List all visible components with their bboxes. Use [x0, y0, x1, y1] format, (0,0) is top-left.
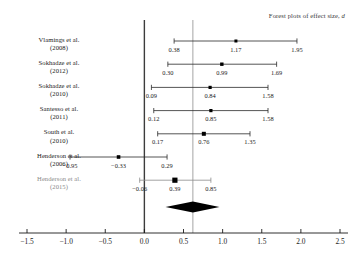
study-label: Henderson et al.(2006) — [0, 152, 118, 168]
x-axis-tick-label: 0.5 — [179, 237, 188, 246]
ci-upper-label: 1.58 — [262, 92, 273, 99]
effect-size-label: 0.99 — [216, 69, 227, 76]
study-year: (2012) — [50, 67, 68, 74]
study-author: Henderson et al. — [37, 152, 81, 159]
effect-size-label: 1.17 — [230, 46, 241, 53]
study-year: (2006) — [50, 160, 68, 167]
effect-marker — [202, 132, 206, 136]
x-axis-tick-label: −1.0 — [59, 237, 72, 246]
study-year: (2010) — [50, 137, 68, 144]
ci-upper-label: 1.35 — [244, 138, 255, 145]
effect-size-label: 0.85 — [205, 115, 216, 122]
effect-size-label: 0.39 — [169, 185, 180, 192]
chart-title-symbol: d — [342, 12, 345, 19]
study-label: Santesso et al.(2011) — [0, 105, 118, 121]
x-axis-tick-label: 2.0 — [296, 237, 305, 246]
summary-diamond — [166, 202, 220, 213]
study-year: (2015) — [50, 183, 68, 190]
study-year: (2010) — [50, 90, 68, 97]
effect-size-label: 0.84 — [204, 92, 215, 99]
ci-lower-label: −0.06 — [132, 185, 147, 192]
chart-title: Forest plots of effect size, d — [269, 12, 345, 19]
study-label: South et al.(2010) — [0, 128, 118, 144]
ci-upper-label: 1.69 — [271, 69, 282, 76]
effect-marker — [234, 40, 237, 43]
study-year: (2011) — [50, 113, 68, 120]
x-axis-tick-label: 2.5 — [335, 237, 344, 246]
study-label: Henderson et al.(2015) — [0, 175, 118, 191]
effect-marker — [209, 86, 212, 89]
study-author: Vlamings et al. — [39, 36, 80, 43]
study-label: Vlamings et al.(2008) — [0, 36, 118, 52]
ci-upper-label: 0.85 — [205, 185, 216, 192]
x-axis-tick-label: 1.0 — [218, 237, 227, 246]
chart-title-text: Forest plots of effect size, — [269, 12, 340, 19]
ci-lower-label: 0.12 — [148, 115, 159, 122]
effect-marker — [172, 178, 177, 183]
study-year: (2008) — [50, 44, 68, 51]
study-author: Santesso et al. — [40, 105, 78, 112]
ci-lower-label: 0.30 — [162, 69, 173, 76]
study-author: Sokhadze et al. — [39, 82, 80, 89]
effect-size-label: 0.76 — [198, 138, 209, 145]
effect-marker — [209, 109, 212, 112]
x-axis-tick-label: 0.0 — [140, 237, 149, 246]
effect-marker — [220, 63, 223, 66]
x-axis-tick-label: −1.5 — [20, 237, 33, 246]
study-label: Sokhadze et al.(2010) — [0, 82, 118, 98]
study-author: South et al. — [44, 128, 74, 135]
study-label: Sokhadze et al.(2012) — [0, 59, 118, 75]
ci-upper-label: 0.29 — [161, 162, 172, 169]
ci-lower-label: 0.38 — [168, 46, 179, 53]
ci-lower-label: 0.09 — [146, 92, 157, 99]
study-author: Henderson et al. — [37, 175, 81, 182]
ci-lower-label: 0.17 — [152, 138, 163, 145]
ci-upper-label: 1.95 — [291, 46, 302, 53]
study-author: Sokhadze et al. — [39, 59, 80, 66]
ci-upper-label: 1.58 — [262, 115, 273, 122]
forest-plot: 0.381.171.95Vlamings et al.(2008)0.300.9… — [0, 0, 353, 263]
x-axis-tick-label: 1.5 — [257, 237, 266, 246]
x-axis-tick-label: −0.5 — [99, 237, 112, 246]
